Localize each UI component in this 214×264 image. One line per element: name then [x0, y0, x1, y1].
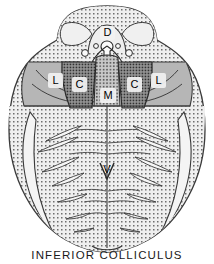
label-ventral-text: V: [103, 163, 111, 175]
label-medial-text: M: [103, 89, 112, 101]
figure-container: D L L C C M V INFERIOR COLLICULUS: [0, 0, 214, 264]
label-central-right-text: C: [131, 78, 139, 90]
figure-caption: INFERIOR COLLICULUS: [0, 249, 214, 261]
dorsal-nucleus-dot-2: [116, 44, 121, 49]
dorsal-nucleus-dot-1: [94, 44, 99, 49]
label-lateral-left-text: L: [52, 74, 58, 86]
label-dorsal-text: D: [104, 26, 112, 38]
inferior-colliculus-diagram: D L L C C M V: [0, 0, 214, 264]
dorsal-nucleus-dot-3: [82, 50, 89, 57]
label-central-left-text: C: [76, 78, 84, 90]
label-ventral: V: [103, 163, 111, 175]
dorsal-nucleus-dot-4: [126, 50, 133, 57]
label-dorsal: D: [100, 26, 115, 40]
label-central-right: C: [127, 77, 142, 92]
label-central-left: C: [72, 77, 87, 92]
label-medial: M: [100, 88, 116, 103]
label-lateral-left: L: [48, 73, 63, 88]
ventral-body-region: [0, 100, 214, 264]
label-lateral-right-text: L: [155, 74, 161, 86]
label-lateral-right: L: [151, 73, 166, 88]
